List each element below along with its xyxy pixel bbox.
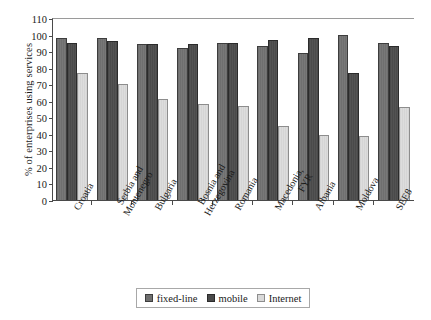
y-tick-label: 100 xyxy=(31,30,47,41)
legend-swatch-fixed xyxy=(145,294,153,302)
y-tick-label: 70 xyxy=(37,80,48,91)
bar-mobile xyxy=(348,73,359,200)
legend-swatch-mobile xyxy=(207,294,215,302)
legend-label: fixed-line xyxy=(157,293,198,304)
bar-mobile xyxy=(188,44,199,200)
legend-item: fixed-line xyxy=(145,293,198,304)
legend-label: mobile xyxy=(219,293,248,304)
y-tick-label: 80 xyxy=(37,63,48,74)
x-label-cell: Bosnia andHerzegovina xyxy=(173,205,213,277)
x-label-cell: Bulgaria xyxy=(132,205,172,277)
x-label-cell: Romania xyxy=(213,205,253,277)
y-tick-label: 20 xyxy=(37,162,48,173)
bar-fixed xyxy=(97,38,108,200)
x-label-cell: SEE8 xyxy=(374,205,414,277)
chart-legend: fixed-linemobileInternet xyxy=(136,288,310,308)
x-label-cell: Albania xyxy=(293,205,333,277)
bar-fixed xyxy=(257,46,268,200)
x-label-cell: Macedonia,FYR xyxy=(253,205,293,277)
bar-group xyxy=(173,18,213,200)
y-tick-label: 10 xyxy=(37,179,48,190)
y-tick-label: 30 xyxy=(37,146,48,157)
y-tick-mark xyxy=(49,201,53,202)
bar-group xyxy=(334,18,374,200)
bar-mobile xyxy=(67,43,78,200)
bar-fixed xyxy=(378,43,389,200)
bar-chart: % of enterprises using services 01020304… xyxy=(0,0,431,320)
x-label-cell: Moldova xyxy=(334,205,374,277)
y-tick-label: 40 xyxy=(37,129,48,140)
bar-fixed xyxy=(56,38,67,200)
y-tick-label: 110 xyxy=(32,14,47,25)
y-tick-label: 0 xyxy=(42,196,47,207)
y-tick-label: 90 xyxy=(37,47,48,58)
bar-fixed xyxy=(177,48,188,200)
y-tick-label: 60 xyxy=(37,96,48,107)
legend-item: Internet xyxy=(257,293,302,304)
x-label-cell: Serbia andMontenegro xyxy=(92,205,132,277)
legend-swatch-internet xyxy=(257,294,265,302)
bar-mobile xyxy=(389,46,400,200)
x-label-cell: Croatia xyxy=(52,205,92,277)
bar-fixed xyxy=(338,35,349,200)
legend-item: mobile xyxy=(207,293,248,304)
bar-mobile xyxy=(268,40,279,200)
bar-group xyxy=(92,18,132,200)
y-tick-label: 50 xyxy=(37,113,48,124)
bar-group xyxy=(52,18,92,200)
bar-group xyxy=(253,18,293,200)
y-axis-title: % of enterprises using services xyxy=(23,20,34,200)
legend-label: Internet xyxy=(269,293,302,304)
x-axis-labels: CroatiaSerbia andMontenegroBulgariaBosni… xyxy=(52,205,414,277)
bar-group xyxy=(374,18,414,200)
bar-mobile xyxy=(107,41,118,200)
